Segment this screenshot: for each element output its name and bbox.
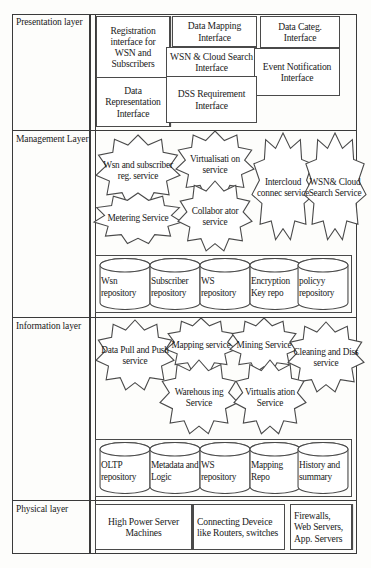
repository-ws[interactable]: WS repository xyxy=(199,442,251,494)
node-registration-interface[interactable]: Registration interface for WSN and Subsc… xyxy=(96,16,170,78)
repository-label: WS repository xyxy=(199,460,251,494)
node-data-categ-interface[interactable]: Data Categ. Interface xyxy=(260,16,340,48)
service-virtualisation[interactable]: Virtualis ation Service xyxy=(234,360,306,436)
architecture-diagram: Presentation layer Registration interfac… xyxy=(12,14,357,554)
service-label: Warehous ing Service xyxy=(160,387,238,410)
service-metering[interactable]: Metering Service xyxy=(94,193,182,245)
service-label: Cleaning and Diss service xyxy=(288,347,364,370)
repository-wsn[interactable]: Wsn repository xyxy=(99,258,151,310)
service-label: Mining Service xyxy=(235,340,294,351)
layer-body-presentation: Registration interface for WSN and Subsc… xyxy=(90,14,357,130)
service-label: Wsn and subscriber reg. service xyxy=(96,160,180,183)
repository-label: Subscriber repository xyxy=(149,276,201,310)
repository-encryption-key[interactable]: Encryption Key repo xyxy=(249,258,301,310)
layer-body-information: Data Pull and Push service Mapping servi… xyxy=(90,318,357,500)
repository-label: History and summary xyxy=(297,460,349,494)
repository-label: WS repository xyxy=(199,276,251,310)
service-label: WSN& Cloud Search Service xyxy=(304,177,366,200)
layer-physical: Physical layer High Power Server Machine… xyxy=(12,501,357,554)
node-dss-requirement-interface[interactable]: DSS Requirement Interface xyxy=(166,76,257,123)
layer-information: Information layer Data Pull and Push ser… xyxy=(12,318,357,501)
layer-label-information: Information layer xyxy=(12,318,90,500)
service-warehousing[interactable]: Warehous ing Service xyxy=(160,360,238,436)
node-event-notification-interface[interactable]: Event Notification Interface xyxy=(254,48,340,96)
service-collaborator[interactable]: Collabor ator service xyxy=(178,181,252,253)
repository-subscriber[interactable]: Subscriber repository xyxy=(149,258,201,310)
node-connecting-devices[interactable]: Connecting Deveice like Routers, switche… xyxy=(193,504,285,550)
layer-label-physical: Physical layer xyxy=(12,501,90,554)
layer-body-management: Wsn and subscriber reg. service Virtuali… xyxy=(90,131,357,317)
service-label: Virtualis ation Service xyxy=(234,387,306,410)
layer-label-management: Management Layer xyxy=(12,131,90,317)
layer-presentation: Presentation layer Registration interfac… xyxy=(12,14,357,131)
node-data-representation-interface[interactable]: Data Representation Interface xyxy=(96,77,170,127)
repository-label: Metadata and Logic xyxy=(149,460,201,494)
layer-label-presentation: Presentation layer xyxy=(12,14,90,130)
repository-oltp[interactable]: OLTP repository xyxy=(99,442,151,494)
node-wsn-cloud-search-interface[interactable]: WSN & Cloud Search Interface xyxy=(166,47,257,77)
service-label: Data Pull and Push service xyxy=(96,345,174,368)
node-firewalls-web-app-servers[interactable]: Firewalls, Web Servers, App. Servers xyxy=(290,504,352,550)
service-label: Mapping service xyxy=(169,340,232,351)
repository-label: OLTP repository xyxy=(99,460,151,494)
repository-label: Wsn repository xyxy=(99,276,151,310)
repository-history-and-summary[interactable]: History and summary xyxy=(297,442,349,494)
service-label: Metering Service xyxy=(105,213,170,224)
layer-body-physical: High Power Server Machines Connecting De… xyxy=(90,501,357,554)
repository-mapping[interactable]: Mapping Repo xyxy=(249,442,301,494)
repository-policy[interactable]: policyy repository xyxy=(297,258,349,310)
node-data-mapping-interface[interactable]: Data Mapping Interface xyxy=(172,16,257,47)
layer-management: Management Layer Wsn and subscriber reg.… xyxy=(12,131,357,318)
repository-ws[interactable]: WS repository xyxy=(199,258,251,310)
repository-label: Mapping Repo xyxy=(249,460,301,494)
service-wsn-cloud-search[interactable]: WSN& Cloud Search Service xyxy=(304,133,366,243)
repository-label: policyy repository xyxy=(297,276,349,310)
service-label: Virtualisati on service xyxy=(176,154,254,177)
node-high-power-servers[interactable]: High Power Server Machines xyxy=(95,504,192,550)
repository-metadata-and-logic[interactable]: Metadata and Logic xyxy=(149,442,201,494)
repository-label: Encryption Key repo xyxy=(249,276,301,310)
service-label: Collabor ator service xyxy=(178,206,252,229)
